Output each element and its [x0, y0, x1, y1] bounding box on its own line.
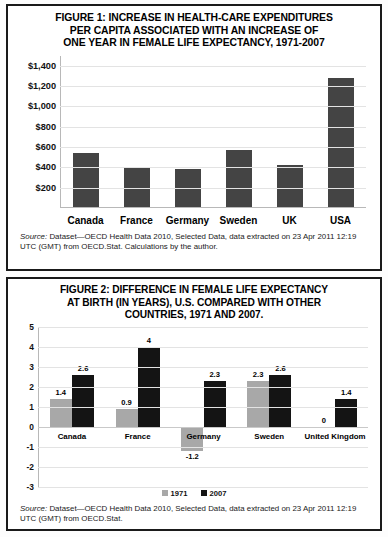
figure-2-title-line-3: COUNTRIES, 1971 AND 2007. [20, 309, 368, 322]
figure-2-value-label: 1.4 [341, 388, 352, 397]
figure-2-value-label: 2.3 [253, 370, 264, 379]
page-root: FIGURE 1: INCREASE IN HEALTH-CARE EXPEND… [0, 0, 388, 537]
figure-1-plot-inner: $1,400$1,200$1,000$800$600$400$200 [60, 56, 366, 208]
figure-2-title-line-2: AT BIRTH (IN YEARS), U.S. COMPARED WITH … [20, 297, 368, 310]
figure-1-source-note: Source: Dataset—OECD Health Data 2010, S… [8, 226, 380, 258]
figure-1-bar-slot [112, 56, 163, 208]
figure-1-bar-slot [264, 56, 315, 208]
figure-2-gridline [38, 367, 368, 368]
figure-1-plot-area: $1,400$1,200$1,000$800$600$400$200 [60, 56, 366, 208]
figure-2-y-tick-label: 0 [29, 422, 34, 432]
figure-2-bar-1971 [116, 409, 138, 427]
figure-2-value-label: 2.3 [209, 370, 220, 379]
figure-2-legend: 19712007 [8, 487, 380, 498]
figure-1-gridline [60, 167, 366, 168]
figure-2-legend-item[interactable]: 2007 [201, 489, 227, 498]
legend-swatch-icon [162, 490, 168, 496]
figure-1-bar-slot [61, 56, 112, 208]
figure-1-bar [73, 153, 99, 208]
figure-2-gridline [38, 327, 368, 328]
figure-1-title-line-2: PER CAPITA ASSOCIATED WITH AN INCREASE O… [18, 25, 370, 38]
figure-2-x-tick-label: Germany [186, 432, 220, 441]
figure-2-gridline [38, 467, 368, 468]
figure-1-source-text: Dataset—OECD Health Data 2010, Selected … [20, 232, 356, 251]
figure-2-value-label: 2.6 [275, 364, 286, 373]
figure-1-bar [277, 165, 303, 208]
figure-1-gridline [60, 106, 366, 107]
figure-1-bar [226, 150, 252, 208]
figure-1-bar-slot [315, 56, 366, 208]
figure-1-gridline [60, 66, 366, 67]
figure-1-baseline [60, 207, 366, 208]
figure-2-plot-inner: 1.42.6Canada0.94France-1.22.3Germany2.32… [38, 327, 368, 487]
figure-2-y-tick-label: 1 [29, 402, 34, 412]
figure-2-y-tick-label: 5 [29, 322, 34, 332]
figure-2-value-label: 0 [322, 416, 326, 425]
figure-2-panel: FIGURE 2: DIFFERENCE IN FEMALE LIFE EXPE… [6, 277, 382, 531]
legend-swatch-icon [201, 490, 207, 496]
figure-1-x-tick-label: France [111, 215, 162, 226]
figure-1-gridline [60, 86, 366, 87]
figure-2-source-text: Dataset—OECD Health Data 2010, Selected … [20, 504, 356, 523]
figure-1-y-tick-label: $1,000 [28, 101, 56, 111]
figure-2-plot-area: 1.42.6Canada0.94France-1.22.3Germany2.32… [38, 327, 368, 487]
figure-2-value-label: 4 [147, 336, 151, 345]
figure-2-gridline [38, 407, 368, 408]
figure-2-x-tick-label: Canada [58, 432, 87, 441]
figure-2-x-tick-label: United Kingdom [305, 432, 366, 441]
figure-1-y-tick-label: $1,400 [28, 61, 56, 71]
figure-2-x-tick-label: Sweden [254, 432, 284, 441]
figure-2-y-tick-label: 3 [29, 362, 34, 372]
figure-2-gridline [38, 487, 368, 488]
figure-2-bar-2007 [72, 375, 94, 427]
figure-1-gridline [60, 188, 366, 189]
figure-2-gridline [38, 447, 368, 448]
figure-2-zero-line [38, 427, 368, 428]
figure-1-panel: FIGURE 1: INCREASE IN HEALTH-CARE EXPEND… [6, 4, 382, 271]
figure-2-bar-1971 [50, 399, 72, 427]
figure-2-source-label: Source: [20, 504, 47, 513]
figure-2-title-line-1: FIGURE 2: DIFFERENCE IN FEMALE LIFE EXPE… [20, 284, 368, 297]
figure-2-y-tick-label: 2 [29, 382, 34, 392]
figure-2-legend-label: 2007 [210, 489, 227, 498]
figure-1-y-tick-label: $600 [36, 142, 56, 152]
figure-1-bar-slot [163, 56, 214, 208]
figure-2-gridline [38, 387, 368, 388]
figure-1-source-label: Source: [20, 232, 47, 241]
figure-1-gridline [60, 147, 366, 148]
figure-1-x-axis-labels: CanadaFranceGermanySwedenUKUSA [60, 208, 366, 226]
figure-1-x-tick-label: USA [315, 215, 366, 226]
figure-2-legend-label: 1971 [171, 489, 188, 498]
figure-2-source-note: Source: Dataset—OECD Health Data 2010, S… [8, 498, 380, 530]
figure-1-x-tick-label: UK [264, 215, 315, 226]
figure-1-x-tick-label: Germany [162, 215, 213, 226]
figure-2-value-label: 1.4 [55, 388, 66, 397]
figure-1-title: FIGURE 1: INCREASE IN HEALTH-CARE EXPEND… [8, 6, 380, 54]
figure-2-legend-item[interactable]: 1971 [162, 489, 188, 498]
figure-1-y-tick-label: $800 [36, 122, 56, 132]
figure-2-bar-2007 [269, 375, 291, 427]
figure-1-bar-slot [213, 56, 264, 208]
figure-2-value-label: -1.2 [186, 452, 199, 461]
figure-2-y-tick-label: 4 [29, 342, 34, 352]
figure-2-value-label: 0.9 [121, 398, 132, 407]
figure-2-y-tick-label: -3 [27, 482, 34, 492]
figure-1-y-tick-label: $200 [36, 183, 56, 193]
figure-1-title-line-3: ONE YEAR IN FEMALE LIFE EXPECTANCY, 1971… [18, 37, 370, 50]
figure-1-y-tick-label: $400 [36, 162, 56, 172]
figure-2-value-label: 2.6 [78, 364, 89, 373]
figure-2-title: FIGURE 2: DIFFERENCE IN FEMALE LIFE EXPE… [8, 279, 380, 325]
figure-1-title-line-1: FIGURE 1: INCREASE IN HEALTH-CARE EXPEND… [18, 12, 370, 25]
figure-1-gridline [60, 127, 366, 128]
figure-2-y-tick-label: -1 [27, 442, 34, 452]
figure-1-y-tick-label: $1,200 [28, 81, 56, 91]
figure-1-bar-series [61, 56, 366, 208]
figure-1-x-tick-label: Sweden [213, 215, 264, 226]
figure-2-bar-2007 [335, 399, 357, 427]
figure-2-x-tick-label: France [125, 432, 151, 441]
figure-1-x-tick-label: Canada [60, 215, 111, 226]
figure-2-y-tick-label: -2 [27, 462, 34, 472]
figure-2-gridline [38, 347, 368, 348]
